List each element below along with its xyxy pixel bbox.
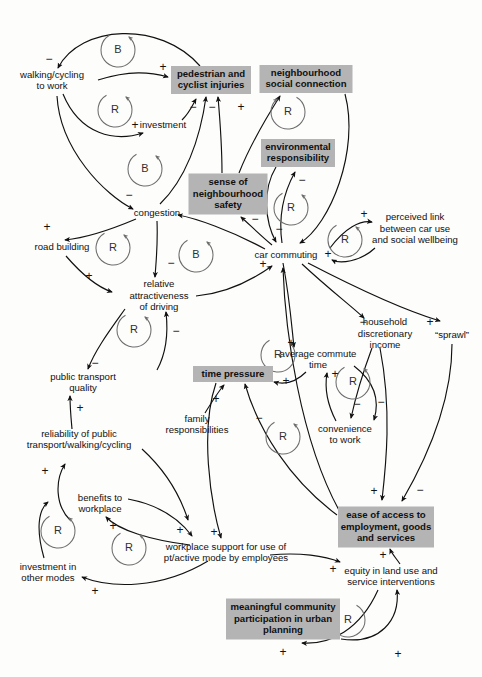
variable-label-line: meaningful community <box>230 601 336 612</box>
causal-link-reliability-to-family <box>142 449 188 520</box>
variable-label-line: equity in land use and <box>344 565 437 576</box>
variable-label-line: ease of access to <box>346 509 426 520</box>
loop-label-r: R <box>125 541 133 553</box>
variable-household_income[interactable]: householddiscretionaryincome <box>358 316 413 350</box>
variable-walking_cycling[interactable]: walking/cyclingto work <box>19 69 84 92</box>
polarity-label: + <box>210 525 217 539</box>
polarity-label: + <box>329 562 336 576</box>
variable-environmental_resp[interactable]: environmentalresponsibility <box>261 139 335 167</box>
loop-label-b: B <box>114 43 121 55</box>
causal-link-sprawl-to-ease <box>402 344 452 501</box>
variable-road_building[interactable]: road building <box>35 241 90 252</box>
variable-label-line: congestion <box>134 207 180 218</box>
polarity-label: + <box>237 100 244 114</box>
variable-workplace_support[interactable]: workplace support for use ofpt/active mo… <box>164 541 288 564</box>
causal-loop-diagram-svg: BRBRRRBRRRRRRRR +−+−−−+−+−−+++−++−−+++++… <box>0 0 482 677</box>
loop-label-r: R <box>109 241 117 253</box>
polarity-label: + <box>41 464 48 478</box>
variable-average_commute_time[interactable]: average commutetime <box>280 348 357 371</box>
variable-neighbourhood_social[interactable]: neighbourhoodsocial connection <box>260 65 353 93</box>
variable-label-line: discretionary <box>358 328 413 339</box>
polarity-label: − <box>298 173 305 187</box>
loop-label-r: R <box>54 524 62 536</box>
causal-link-car-to-household-income <box>302 264 364 318</box>
variable-sprawl[interactable]: “sprawl” <box>435 329 469 340</box>
variable-label-line: workplace support for use of <box>165 541 287 552</box>
variable-equity_land_use[interactable]: equity in land use andservice interventi… <box>344 565 437 588</box>
variable-congestion[interactable]: congestion <box>134 207 180 218</box>
variable-label-line: neighbourhood <box>271 67 341 78</box>
polarity-label: + <box>91 584 98 598</box>
polarity-label: − <box>45 52 52 66</box>
polarity-label: + <box>76 401 83 415</box>
loop-label-b: B <box>141 162 148 174</box>
polarity-label: + <box>331 367 338 381</box>
causal-link-workplace-to-investment-other <box>82 561 208 584</box>
polarity-label: + <box>212 392 219 406</box>
variable-ease_of_access[interactable]: ease of access toemployment, goodsand se… <box>338 507 434 548</box>
causal-link-safety-to-injuries <box>218 97 222 173</box>
variable-label-line: time <box>309 359 327 370</box>
variable-convenience_to_work[interactable]: convenienceto work <box>318 423 372 446</box>
variable-public_transport_quality[interactable]: public transportquality <box>50 371 116 394</box>
variable-label-line: to work <box>37 80 68 91</box>
causal-link-commute-time-to-time-pressure <box>274 372 306 383</box>
polarity-label: + <box>109 519 116 533</box>
causal-link-ease-to-car <box>283 268 340 512</box>
variable-sense_safety[interactable]: sense ofneighbourhoodsafety <box>189 174 268 215</box>
polarity-label: − <box>91 356 98 370</box>
variable-relative_attractiveness[interactable]: relativeattractivenessof driving <box>129 278 188 312</box>
polarity-label: + <box>176 523 183 537</box>
variable-label-line: public transport <box>50 371 116 382</box>
variables-layer: walking/cyclingto workpedestrian andcycl… <box>19 65 469 640</box>
causal-link-congestion-to-attractiveness <box>155 221 157 277</box>
variable-label-line: family <box>184 413 209 424</box>
variable-label-line: quality <box>69 382 97 393</box>
variable-label-line: and social wellbeing <box>372 234 458 245</box>
variable-meaningful_participation[interactable]: meaningful communityparticipation in urb… <box>226 599 340 640</box>
polarity-label: − <box>353 397 360 411</box>
variable-label-line: planning <box>263 624 303 635</box>
causal-link-ptquality-to-attractiveness <box>157 312 167 370</box>
variable-label-line: benefits to <box>78 492 122 503</box>
variable-time_pressure[interactable]: time pressure <box>193 366 273 382</box>
variable-perceived_link[interactable]: perceived linkbetween car useand social … <box>372 211 458 245</box>
polarity-label: + <box>43 220 50 234</box>
variable-label-line: time pressure <box>202 368 265 379</box>
variable-label-line: investment in <box>20 561 77 572</box>
polarity-label: − <box>255 411 262 425</box>
variable-label-line: reliability of public <box>41 428 117 439</box>
polarity-label: − <box>125 188 132 202</box>
variable-benefits_workplace[interactable]: benefits toworkplace <box>77 492 122 515</box>
loop-label-r: R <box>130 323 138 335</box>
causal-loop-diagram-canvas: BRBRRRBRRRRRRRR +−+−−−+−+−−+++−++−−+++++… <box>0 0 482 677</box>
polarity-label: − <box>377 395 384 409</box>
variable-label-line: income <box>370 339 401 350</box>
variable-label-line: neighbourhood <box>193 188 263 199</box>
variable-label-line: pt/active mode by employees <box>164 552 288 563</box>
variable-label-line: household <box>363 316 407 327</box>
variable-investment[interactable]: investment <box>140 119 187 130</box>
variable-family_responsibilities[interactable]: familyresponsibilities <box>166 413 229 436</box>
polarity-label: − <box>167 256 174 270</box>
causal-link-car-to-sprawl <box>308 263 440 321</box>
variable-label-line: between car use <box>380 223 450 234</box>
causal-link-equity-to-ease <box>390 549 400 564</box>
variable-label-line: other modes <box>21 572 75 583</box>
causal-link-benefits-to-reliability <box>58 464 70 520</box>
variable-label-line: participation in urban <box>234 613 332 624</box>
variable-label-line: car commuting <box>255 249 318 260</box>
causal-link-walking-to-congestion <box>57 96 133 209</box>
loop-label-r: R <box>279 430 287 442</box>
variable-label-line: relative <box>144 278 175 289</box>
variable-pedestrian_injuries[interactable]: pedestrian andcyclist injuries <box>171 66 251 94</box>
polarity-label: − <box>189 100 196 114</box>
variable-label-line: walking/cycling <box>19 69 84 80</box>
variable-label-line: attractiveness <box>129 290 188 301</box>
variable-reliability_pt[interactable]: reliability of publictransport/walking/c… <box>27 428 132 451</box>
polarity-label: + <box>360 207 367 221</box>
variable-car_commuting[interactable]: car commuting <box>255 249 318 260</box>
variable-label-line: responsibility <box>267 152 330 163</box>
polarity-label: + <box>282 374 289 388</box>
variable-investment_other_modes[interactable]: investment inother modes <box>20 561 77 584</box>
